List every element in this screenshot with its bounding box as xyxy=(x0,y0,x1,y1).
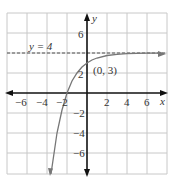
asymptote-label: y = 4 xyxy=(28,40,53,52)
curve-right-arrow-icon xyxy=(158,51,166,57)
x-tick--4: −4 xyxy=(36,96,48,108)
point-label: (0, 3) xyxy=(93,64,117,77)
x-tick-2: 2 xyxy=(104,96,110,108)
y-tick-6: 6 xyxy=(78,28,84,40)
x-axis-left-arrow-icon xyxy=(5,90,13,96)
x-tick-4: 4 xyxy=(124,96,130,108)
graph: y x y = 4 (0, 3) −6 −4 −2 2 4 6 6 2 −2 −… xyxy=(0,0,174,186)
y-tick--4: −4 xyxy=(73,127,85,139)
y-axis xyxy=(84,13,90,177)
x-axis-label: x xyxy=(159,95,165,107)
x-tick-6: 6 xyxy=(144,96,150,108)
curve-down-arrow-icon xyxy=(48,168,53,176)
y-axis-up-arrow-icon xyxy=(84,13,90,21)
y-axis-down-arrow-icon xyxy=(84,169,90,177)
y-tick--2: −2 xyxy=(73,107,85,119)
y-tick-2: 2 xyxy=(78,68,84,80)
x-tick--6: −6 xyxy=(15,96,27,108)
x-tick--2: −2 xyxy=(56,96,68,108)
y-axis-label: y xyxy=(91,12,97,24)
y-tick--6: −6 xyxy=(73,147,85,159)
